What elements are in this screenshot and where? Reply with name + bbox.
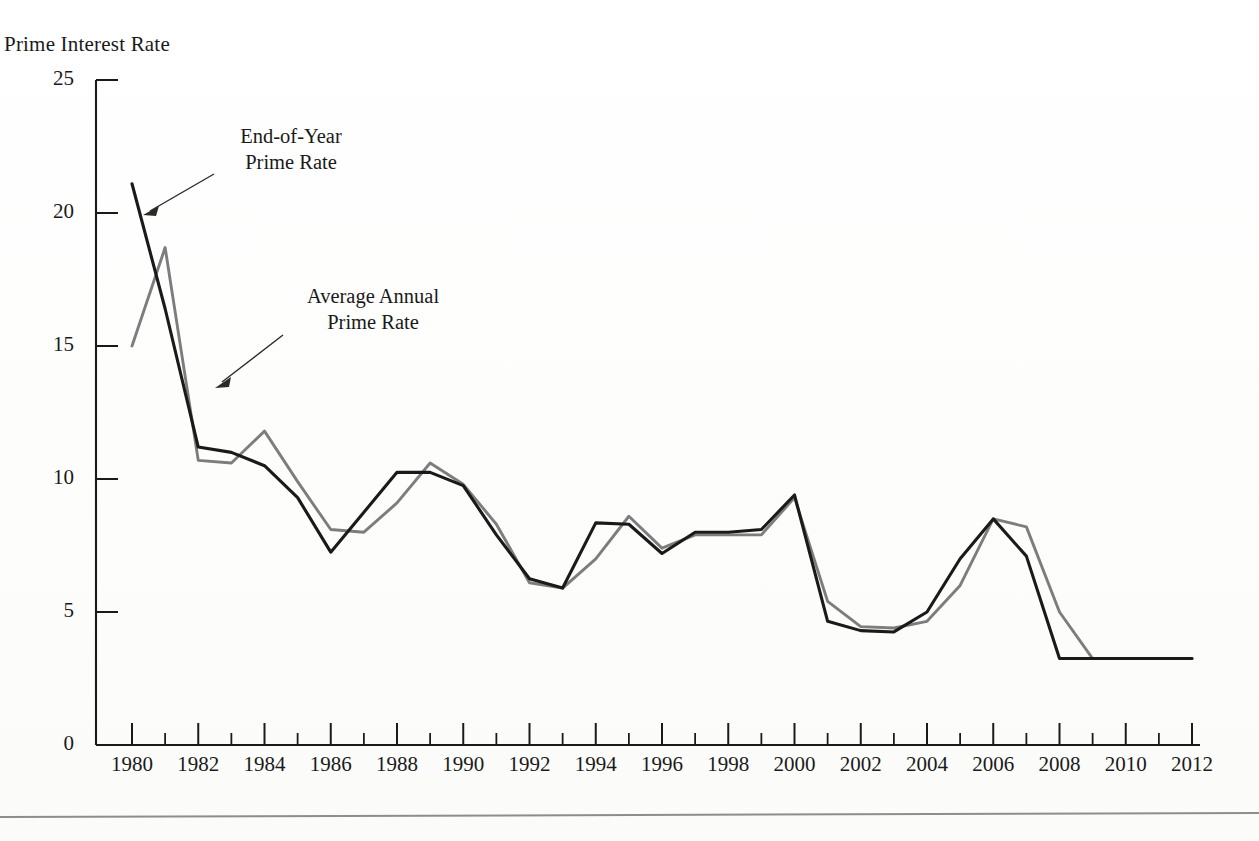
annotation-average-annual-line2: Prime Rate bbox=[258, 310, 488, 336]
y-tick-label: 0 bbox=[28, 731, 74, 756]
x-tick-label: 1994 bbox=[560, 752, 632, 777]
y-tick-label: 5 bbox=[28, 598, 74, 623]
x-tick-label: 2004 bbox=[891, 752, 963, 777]
x-tick-label: 1980 bbox=[96, 752, 168, 777]
x-tick-label: 2008 bbox=[1024, 752, 1096, 777]
average-annual-arrow-icon bbox=[215, 335, 283, 388]
x-tick-label: 1988 bbox=[361, 752, 433, 777]
annotation-end-of-year: End-of-Year Prime Rate bbox=[196, 124, 386, 176]
x-tick-label: 2002 bbox=[825, 752, 897, 777]
x-tick-label: 1984 bbox=[229, 752, 301, 777]
x-tick-label: 1990 bbox=[427, 752, 499, 777]
annotation-average-annual: Average Annual Prime Rate bbox=[258, 284, 488, 336]
x-tick-label: 1996 bbox=[626, 752, 698, 777]
x-tick-label: 2006 bbox=[957, 752, 1029, 777]
end-of-year-arrow-icon bbox=[143, 174, 214, 216]
annotation-end-of-year-line2: Prime Rate bbox=[196, 150, 386, 176]
y-tick-label: 15 bbox=[28, 332, 74, 357]
x-tick-label: 1982 bbox=[162, 752, 234, 777]
x-tick-label: 1992 bbox=[494, 752, 566, 777]
x-tick-label: 2010 bbox=[1090, 752, 1162, 777]
x-tick-label: 1998 bbox=[692, 752, 764, 777]
x-tick-label: 2000 bbox=[759, 752, 831, 777]
annotation-end-of-year-line1: End-of-Year bbox=[196, 124, 386, 150]
y-tick-label: 25 bbox=[28, 66, 74, 91]
y-tick-label: 10 bbox=[28, 465, 74, 490]
annotation-average-annual-line1: Average Annual bbox=[258, 284, 488, 310]
figure-page: Prime Interest Rate End-of-Year Prime Ra… bbox=[0, 0, 1259, 841]
y-axis-ticks bbox=[96, 80, 118, 745]
y-tick-label: 20 bbox=[28, 199, 74, 224]
x-axis-ticks bbox=[132, 723, 1192, 745]
series-line bbox=[132, 184, 1192, 659]
chart-series-group bbox=[132, 184, 1192, 659]
x-tick-label: 1986 bbox=[295, 752, 367, 777]
chart-plot-area bbox=[0, 0, 1259, 841]
x-tick-label: 2012 bbox=[1156, 752, 1228, 777]
